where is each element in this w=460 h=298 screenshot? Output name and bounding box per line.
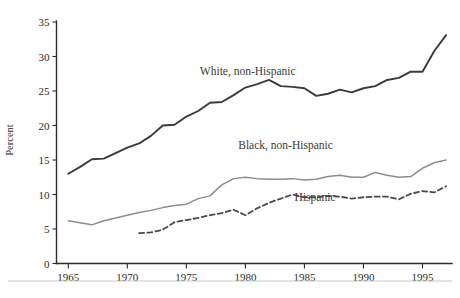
y-tick-label: 25 [39, 85, 51, 97]
y-tick-label: 20 [39, 120, 51, 132]
y-tick-label: 15 [39, 154, 51, 166]
chart-figure: 05101520253035 1965197019751980198519901… [0, 0, 460, 298]
y-tick-label: 35 [39, 16, 51, 28]
y-tick-label: 5 [44, 223, 50, 235]
y-tick-label: 30 [39, 51, 51, 63]
series-label-white-non-hispanic: White, non-Hispanic [200, 65, 296, 78]
y-tick-label: 10 [39, 189, 51, 201]
y-axis-title: Percent [4, 124, 15, 156]
y-tick-label: 0 [44, 258, 50, 270]
chart-background [0, 0, 460, 298]
series-label-hispanic: Hispanic [295, 191, 336, 204]
series-label-black-non-hispanic: Black, non-Hispanic [238, 139, 333, 152]
line-chart-plot: 05101520253035 1965197019751980198519901… [0, 0, 460, 298]
